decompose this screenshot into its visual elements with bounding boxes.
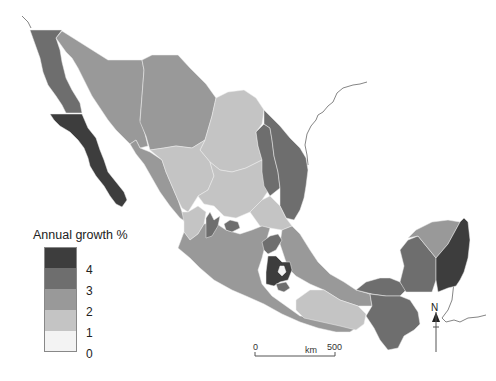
legend-swatch-1	[44, 310, 77, 331]
legend-swatch-3	[44, 268, 77, 289]
us-west-coast	[22, 16, 31, 28]
scale-start-label: 0	[253, 342, 258, 352]
state-chiapas	[366, 294, 420, 350]
legend-swatch-2	[44, 289, 77, 310]
legend-swatch-0	[44, 331, 77, 352]
state-aguascalientes	[224, 220, 240, 232]
scale-bar	[255, 352, 335, 356]
scale-unit-label: km	[305, 345, 317, 355]
legend-swatch-4	[44, 247, 77, 268]
us-coastline	[305, 82, 367, 165]
legend-label-0: 0	[86, 347, 93, 361]
legend-label-4: 4	[86, 263, 93, 277]
legend-title: Annual growth %	[33, 228, 128, 242]
state-chihuahua	[140, 55, 216, 150]
legend-label-3: 3	[86, 284, 93, 298]
state-morelos	[276, 282, 290, 292]
north-label: N	[431, 302, 438, 313]
legend-label-2: 2	[86, 305, 93, 319]
scale-end-label: 500	[327, 342, 342, 352]
legend-label-1: 1	[86, 326, 93, 340]
north-arrow-icon	[432, 312, 440, 352]
